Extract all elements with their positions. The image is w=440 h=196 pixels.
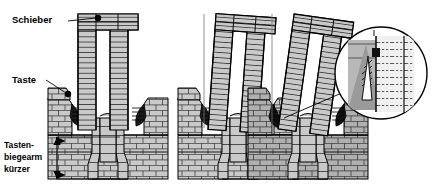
slider-callout-dot <box>95 15 101 21</box>
label-slider: Schieber <box>12 14 52 25</box>
figure-canvas: Schieber Taste Tasten- biegearm kürzer <box>0 0 440 196</box>
label-key: Taste <box>12 74 36 85</box>
dimension-label-line2: biegearm <box>4 152 43 162</box>
dimension-label-line1: Tasten- <box>4 140 34 150</box>
diagram-svg: Schieber Taste Tasten- biegearm kürzer <box>0 0 440 196</box>
panel-2-key-cap <box>178 88 200 100</box>
dimension-label-line3: kürzer <box>4 164 30 174</box>
panel-3-key-cap <box>248 88 270 100</box>
key-callout-dot <box>65 91 71 97</box>
detail-contents <box>348 30 414 112</box>
